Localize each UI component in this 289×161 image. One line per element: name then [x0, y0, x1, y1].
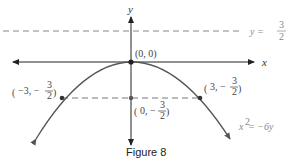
svg-text:2: 2	[232, 86, 237, 97]
svg-text:x: x	[238, 121, 244, 132]
svg-text:y =: y =	[249, 26, 264, 37]
svg-text:0, −: 0, −	[140, 105, 156, 116]
svg-text:): )	[53, 87, 56, 99]
svg-text:3: 3	[160, 99, 165, 110]
svg-text:(: (	[204, 83, 208, 95]
directrix-label: y = 3 2	[249, 19, 286, 42]
svg-text:2: 2	[279, 31, 284, 42]
svg-text:(: (	[12, 87, 16, 99]
right-point	[198, 96, 203, 101]
y-axis-label: y	[127, 3, 133, 15]
svg-text:3, −: 3, −	[210, 81, 226, 92]
parabola-figure: y = 3 2 x y (0, 0) ( 0, − 3 2 ) ( −3, − …	[0, 0, 289, 161]
figure-caption: Figure 8	[126, 146, 166, 158]
svg-text:−3, −: −3, −	[18, 85, 40, 96]
x-axis-label: x	[261, 56, 267, 68]
vertex-label: (0, 0)	[135, 48, 157, 60]
svg-text:3: 3	[232, 75, 237, 86]
svg-text:3: 3	[279, 19, 284, 30]
focus-point	[129, 96, 133, 100]
focus-label: ( 0, − 3 2 )	[134, 99, 169, 121]
left-point	[60, 96, 65, 101]
svg-text:2: 2	[47, 90, 52, 101]
parabola-curve	[36, 62, 230, 139]
svg-text:): )	[166, 106, 169, 118]
svg-text:3: 3	[47, 79, 52, 90]
svg-text:2: 2	[160, 110, 165, 121]
vertex-point	[128, 59, 133, 64]
svg-text:= −6y: = −6y	[248, 121, 274, 132]
equation-label: x 2 = −6y	[238, 116, 274, 132]
right-point-label: ( 3, − 3 2 )	[204, 75, 241, 97]
svg-text:): )	[238, 83, 241, 95]
left-point-label: ( −3, − 3 2 )	[12, 79, 56, 101]
svg-text:(: (	[134, 106, 138, 118]
